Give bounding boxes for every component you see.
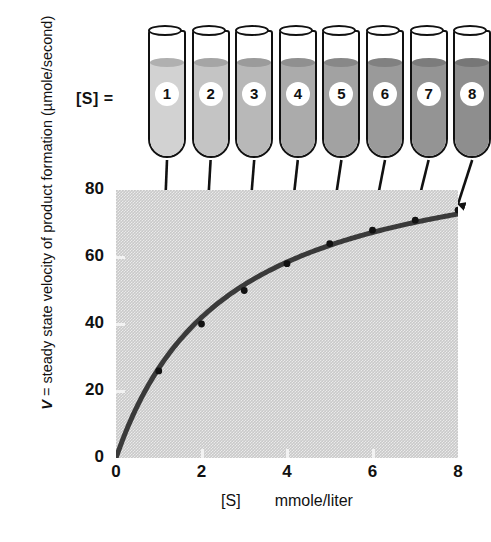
test-tube-meniscus xyxy=(368,58,402,67)
test-tube-liquid xyxy=(412,62,446,156)
test-tube-meniscus xyxy=(324,58,358,67)
test-tube-liquid xyxy=(324,62,358,156)
arrow-tube-8-to-curve xyxy=(458,160,472,204)
x-axis-title-concentration: [S] xyxy=(221,492,241,509)
test-tube-7: 7 xyxy=(410,30,448,158)
test-tube-number-7: 7 xyxy=(417,82,441,106)
substrate-concentration-label: [S] = xyxy=(76,90,114,108)
test-tube-rim xyxy=(410,25,444,36)
y-tick-label-0: 0 xyxy=(64,447,104,467)
y-axis-title: V = steady state velocity of product for… xyxy=(38,140,58,410)
saturation-curve xyxy=(116,190,458,458)
test-tube-liquid xyxy=(368,62,402,156)
test-tube-rim xyxy=(453,25,487,36)
x-tick-label-6: 6 xyxy=(358,462,388,482)
test-tube-meniscus xyxy=(281,58,315,67)
data-point xyxy=(326,240,333,247)
test-tube-meniscus xyxy=(150,58,184,67)
test-tube-liquid xyxy=(455,62,489,156)
curve-line xyxy=(116,214,458,458)
test-tube-1: 1 xyxy=(148,30,186,158)
y-tick-label-60: 60 xyxy=(64,246,104,266)
test-tube-number-2: 2 xyxy=(199,82,223,106)
test-tube-number-3: 3 xyxy=(242,82,266,106)
test-tube-6: 6 xyxy=(366,30,404,158)
y-tick-mark xyxy=(116,390,125,393)
y-tick-label-80: 80 xyxy=(64,179,104,199)
test-tube-number-5: 5 xyxy=(329,82,353,106)
test-tube-8: 8 xyxy=(453,30,491,158)
test-tube-number-6: 6 xyxy=(373,82,397,106)
data-point xyxy=(369,227,376,234)
test-tube-3: 3 xyxy=(235,30,273,158)
data-point xyxy=(155,368,162,375)
y-tick-mark xyxy=(116,256,125,259)
data-point xyxy=(241,287,248,294)
y-axis-title-rest: = steady state velocity of product forma… xyxy=(39,16,55,400)
y-tick-mark xyxy=(116,323,125,326)
test-tube-liquid xyxy=(281,62,315,156)
x-tick-mark xyxy=(372,449,375,458)
x-tick-label-4: 4 xyxy=(272,462,302,482)
test-tube-number-8: 8 xyxy=(460,82,484,106)
test-tube-meniscus xyxy=(455,58,489,67)
test-tube-4: 4 xyxy=(279,30,317,158)
test-tube-rim xyxy=(279,25,313,36)
y-axis-symbol: V xyxy=(39,400,55,410)
test-tube-2: 2 xyxy=(192,30,230,158)
test-tube-liquid xyxy=(194,62,228,156)
x-axis-title: [S]mmole/liter xyxy=(116,492,458,510)
test-tube-meniscus xyxy=(412,58,446,67)
test-tube-rim xyxy=(235,25,269,36)
test-tube-rim xyxy=(366,25,400,36)
x-tick-mark xyxy=(201,449,204,458)
x-axis-title-units: mmole/liter xyxy=(275,492,353,509)
test-tube-rim xyxy=(192,25,226,36)
y-tick-label-20: 20 xyxy=(64,380,104,400)
test-tube-meniscus xyxy=(237,58,271,67)
data-point xyxy=(412,217,419,224)
data-point xyxy=(198,321,205,328)
test-tube-meniscus xyxy=(194,58,228,67)
x-tick-mark xyxy=(286,449,289,458)
curve-data-points xyxy=(155,207,458,375)
x-tick-label-0: 0 xyxy=(101,462,131,482)
x-tick-label-2: 2 xyxy=(187,462,217,482)
y-tick-label-40: 40 xyxy=(64,313,104,333)
test-tube-number-4: 4 xyxy=(286,82,310,106)
test-tube-5: 5 xyxy=(322,30,360,158)
test-tube-rim xyxy=(148,25,182,36)
test-tube-number-1: 1 xyxy=(155,82,179,106)
test-tube-liquid xyxy=(150,62,184,156)
test-tube-liquid xyxy=(237,62,271,156)
x-tick-label-8: 8 xyxy=(443,462,473,482)
data-point xyxy=(284,260,291,267)
